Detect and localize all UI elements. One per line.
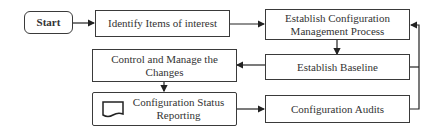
configuration-audits-node: Configuration Audits bbox=[265, 95, 410, 123]
establish-process-label-1: Establish Configuration bbox=[285, 12, 390, 25]
start-label: Start bbox=[37, 16, 61, 29]
establish-baseline-label: Establish Baseline bbox=[297, 61, 378, 74]
control-changes-label-1: Control and Manage the bbox=[111, 53, 218, 66]
document-icon bbox=[102, 101, 124, 119]
start-node: Start bbox=[24, 11, 73, 34]
establish-baseline-node: Establish Baseline bbox=[265, 54, 410, 80]
establish-process-label-2: Management Process bbox=[291, 25, 385, 38]
control-changes-label-2: Changes bbox=[146, 66, 184, 79]
configuration-audits-label: Configuration Audits bbox=[291, 103, 384, 116]
identify-items-label: Identify Items of interest bbox=[108, 17, 217, 30]
status-reporting-label-2: Reporting bbox=[133, 109, 224, 122]
status-reporting-label-1: Configuration Status bbox=[133, 96, 224, 109]
control-changes-node: Control and Manage the Changes bbox=[92, 49, 237, 82]
identify-items-node: Identify Items of interest bbox=[95, 10, 230, 37]
status-reporting-node: Configuration Status Reporting bbox=[92, 92, 237, 126]
establish-process-node: Establish Configuration Management Proce… bbox=[265, 9, 410, 40]
